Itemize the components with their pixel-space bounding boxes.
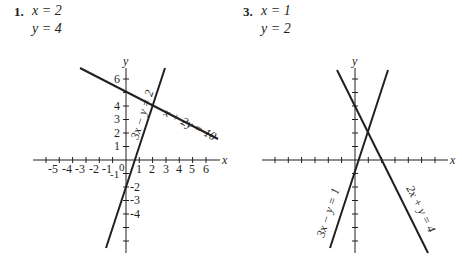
x-tick-label: -5 [48, 162, 58, 176]
graph-1 [33, 68, 220, 253]
y-tick-label: -3 [130, 193, 140, 207]
y-tick-label: 3 [114, 112, 120, 126]
y-tick-label: 2 [114, 126, 120, 140]
x-tick-label: 1 [136, 162, 142, 176]
line-3x-minus-y-eq-2 [106, 68, 165, 248]
graph-3 [262, 68, 448, 253]
x-tick-label: -4 [62, 162, 72, 176]
graphs-canvas: y x -5 -4 -3 -2 -1 0 1 2 3 4 5 6 6 4 3 2… [0, 0, 462, 273]
graph-1-labels: y x -5 -4 -3 -2 -1 0 1 2 3 4 5 6 6 4 3 2… [48, 54, 228, 221]
line-2x-plus-y-eq-4 [337, 70, 428, 253]
y-tick-label: 1 [114, 139, 120, 153]
line-label-3x-minus-y-eq-2: 3x − y = 2 [127, 88, 156, 142]
y-tick-label: -1 [110, 168, 119, 180]
x-tick-label: 2 [149, 162, 155, 176]
y-tick-label: 4 [114, 99, 120, 113]
x-tick-label: 4 [176, 162, 182, 176]
x-tick-label: 3 [163, 162, 169, 176]
x-tick-label: 6 [203, 162, 209, 176]
y-axis-label: y [122, 54, 129, 68]
line-label-2x-plus-y-eq-4: 2x + y = 4 [403, 183, 439, 235]
y-tick-label: -4 [130, 207, 140, 221]
origin-label: 0 [119, 161, 125, 173]
line-label-x-plus-2y-eq-10: x + 2y = 10 [161, 105, 219, 144]
x-tick-label: 5 [189, 162, 195, 176]
x-axis-label: x [449, 153, 456, 167]
line-label-3x-minus-y-eq-1: 3x − y = 1 [313, 186, 342, 240]
y-tick-label: 6 [114, 72, 120, 86]
y-axis-label: y [351, 54, 358, 68]
x-axis-label: x [221, 153, 228, 167]
y-tick-label: -2 [130, 180, 140, 194]
line-3x-minus-y-eq-1 [330, 70, 388, 248]
x-tick-label: -2 [89, 162, 99, 176]
x-tick-label: -3 [75, 162, 85, 176]
